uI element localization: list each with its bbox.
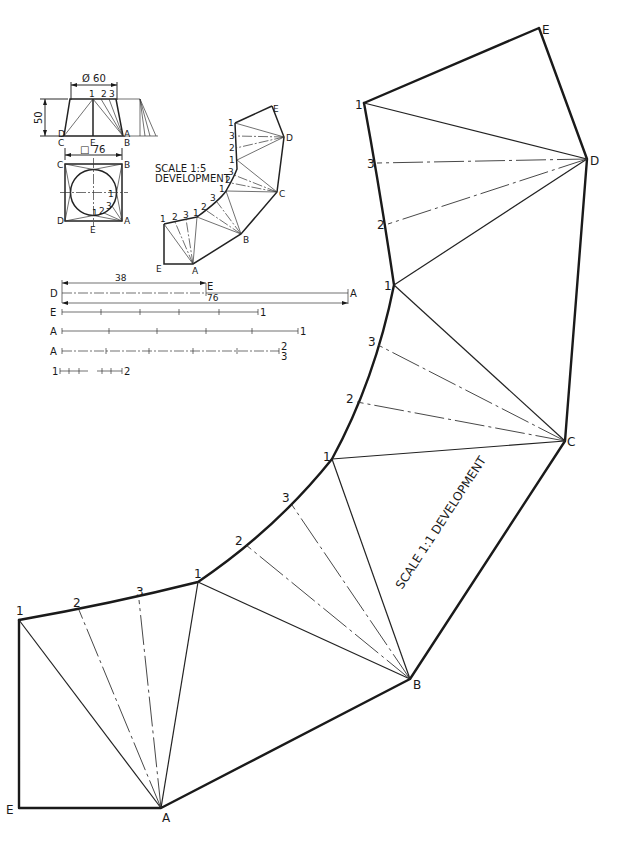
- small-curve-label: 1: [219, 184, 225, 194]
- plan-label-c: C: [57, 160, 63, 170]
- small-dev-label-c: C: [279, 189, 285, 199]
- diameter-label: Ø 60: [82, 73, 106, 84]
- large-curve-label: 2: [377, 218, 385, 232]
- large-curve-label: 1: [194, 567, 202, 581]
- large-curve-label: 1: [16, 604, 24, 618]
- plan-label-1b: 1: [108, 189, 114, 199]
- square-label: □ 76: [80, 144, 105, 155]
- tl-row-a2-label: A: [50, 326, 57, 337]
- small-curve-label: 1: [229, 155, 235, 165]
- small-dev-label-b: B: [243, 235, 249, 245]
- large-curve-label: 1: [355, 98, 363, 112]
- true-length-construction: 38 D E A 76 E 1 A 1 A 2 3 1 2: [50, 273, 357, 377]
- elev-label-b: B: [124, 138, 130, 148]
- small-curve-label: 3: [183, 210, 189, 220]
- large-curve-label: 3: [282, 491, 290, 505]
- plan-label-1: 1: [92, 208, 98, 218]
- elev-label-2: 2: [101, 89, 107, 99]
- small-development: E A B C D E 1 2 3 1 2 3 1 2 3 1 2 3 1 SC…: [155, 104, 293, 276]
- plan-label-d: D: [57, 216, 64, 226]
- elev-label-1: 1: [89, 89, 95, 99]
- tl-row-e-mid-label: E: [207, 281, 213, 292]
- plan-view: □ 76 C B D A E 1 1 2 3: [57, 144, 131, 235]
- tl-row-d-label: D: [50, 288, 58, 299]
- tl-row-1-label: 1: [260, 307, 266, 318]
- small-curve-label: 2: [201, 202, 207, 212]
- large-dev-label-a: A: [162, 811, 171, 825]
- large-curve-label: 2: [73, 596, 81, 610]
- large-curve-label: 1: [384, 279, 392, 293]
- small-dev-label-a: A: [192, 266, 199, 276]
- plan-label-b: B: [124, 160, 130, 170]
- small-curve-label: 2: [172, 212, 178, 222]
- large-dev-label-d: D: [590, 154, 599, 168]
- small-development-title: DEVELOPMENT: [155, 173, 231, 184]
- elev-label-3: 3: [109, 89, 115, 99]
- large-scale-title: SCALE 1:1 DEVELOPMENT: [393, 453, 490, 591]
- small-curve-label: 1: [228, 118, 234, 128]
- large-curve-label: 3: [136, 585, 144, 599]
- tl-row-e-label: E: [50, 307, 56, 318]
- small-curve-label: 3: [229, 131, 235, 141]
- large-dev-label-b: B: [413, 678, 421, 692]
- small-dev-label-e: E: [156, 264, 162, 274]
- small-curve-label: 3: [210, 193, 216, 203]
- drawing-canvas: Ø 60 50 1 2 3 D C E A B □: [0, 0, 623, 842]
- large-curve-label: 1: [323, 450, 331, 464]
- plan-label-a: A: [124, 216, 131, 226]
- tl-row-3-label: 3: [281, 351, 287, 362]
- large-dev-label-e-top: E: [542, 23, 550, 37]
- tl-row-a-label: A: [350, 288, 357, 299]
- small-dev-label-d: D: [286, 133, 293, 143]
- dim-76-label: 76: [207, 293, 219, 303]
- small-dev-label-e-top: E: [273, 104, 279, 114]
- tl-row-2b-label: 2: [124, 366, 130, 377]
- large-curve-label: 2: [346, 392, 354, 406]
- dim-38-label: 38: [115, 273, 127, 283]
- small-curve-label: 2: [229, 143, 235, 153]
- large-curve-label: 2: [235, 534, 243, 548]
- tl-row-1c-label: 1: [52, 366, 58, 377]
- tl-row-1b-label: 1: [300, 326, 306, 337]
- tl-row-a3-label: A: [50, 346, 57, 357]
- elevation-view: Ø 60 50 1 2 3 D C E A B: [33, 73, 158, 148]
- large-curve-label: 3: [368, 335, 376, 349]
- plan-label-e: E: [90, 225, 96, 235]
- large-dev-label-e: E: [6, 803, 14, 817]
- small-curve-label: 1: [160, 214, 166, 224]
- height-label: 50: [33, 111, 44, 124]
- small-curve-label: 1: [193, 208, 199, 218]
- large-dev-label-c: C: [567, 435, 575, 449]
- plan-label-2: 2: [99, 206, 105, 216]
- elev-label-c: C: [58, 138, 64, 148]
- large-curve-label: 3: [367, 157, 375, 171]
- plan-label-3: 3: [106, 201, 112, 211]
